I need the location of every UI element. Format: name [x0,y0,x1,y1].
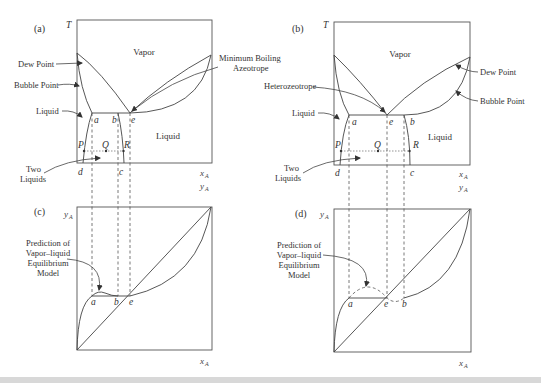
panel-c-callout-line3: Equilibrium [27,258,68,268]
panel-a-bubble-curve-left [77,53,92,113]
panel-a-point-d: d [78,167,83,177]
panel-a-x-axis-label: x A [199,168,209,179]
panel-b-y-axis-label: T [323,20,329,30]
panel-b-callout-two-liquids-line1: Two [284,163,299,173]
panel-d-point-a: a [348,299,353,309]
panel-d-callout-line4: Model [288,270,311,280]
svg-text:x: x [199,356,204,366]
panel-a-liquid-region: Liquid [156,131,180,141]
panel-a-label: (a) [34,23,45,35]
panel-a-point-a: a [94,115,99,125]
panel-d-x-axis-label: x A [458,358,468,369]
panel-b-frame [334,22,470,165]
panel-d-point-e: e [384,299,388,309]
panel-b-bubble-curve-right [404,57,470,115]
panel-b-y2-axis-label: y A [458,182,468,193]
panel-b-point-a: a [352,117,357,127]
panel-a-point-e: e [131,115,135,125]
panel-c-y-axis-label: y A [63,209,73,220]
panel-a-point-Q: Q [102,140,109,150]
panel-d-xy-diagram: (d) y A a e b Prediction of Vapor–liquid… [277,208,471,369]
panel-b-liquid-region: Liquid [428,132,452,142]
panel-a-lle-right-boundary [118,113,124,163]
panel-b-dew-curve-left [334,55,387,115]
panel-b-point-c: c [410,168,415,178]
svg-text:A: A [204,173,209,179]
svg-text:A: A [324,214,329,220]
panel-a-y2-axis-label: y A [199,181,209,192]
panel-a-callout-azeotrope-line2: Azeotrope [233,63,269,73]
panel-b-callout-dew-point: Dew Point [480,67,517,77]
panel-a-vapor-region: Vapor [133,47,155,57]
panel-a-callout-bubble-point: Bubble Point [14,80,59,90]
svg-text:x: x [458,358,463,368]
panel-a-dew-curve-left [77,53,130,113]
panel-b-label: (b) [292,23,304,35]
panel-a-callout-liquid: Liquid [36,106,59,116]
svg-text:y: y [319,209,324,219]
panel-a-callout-two-liquids-line2: Liquids [20,174,46,184]
panel-b-point-e: e [389,117,393,127]
panel-c-callout-line2: Vapor–liquid [26,248,71,258]
panel-d-y-axis-label: y A [319,209,329,220]
svg-text:y: y [63,209,68,219]
panel-a-lle-left-boundary [83,113,92,163]
panel-c-xy-diagram: (c) y A a b e Prediction of Vapor–liquid… [26,206,212,367]
panel-a-callout-dew-point: Dew Point [18,59,55,69]
svg-text:A: A [463,174,468,180]
panel-d-label: (d) [295,208,307,220]
panel-a-point-c: c [119,167,124,177]
panel-c-diagonal [77,207,211,350]
panel-b-point-P: P [334,140,341,150]
panel-d-point-b: b [402,299,407,309]
panel-b-lle-left-boundary [340,115,349,165]
panel-d-callout-line2: Vapor–liquid [277,250,322,260]
panel-a-point-P: P [77,140,84,150]
panel-d-callout-line3: Equilibrium [278,260,319,270]
bottom-gray-band [0,377,541,383]
panel-b-callout-liquid: Liquid [292,108,315,118]
panel-c-x-axis-label: x A [199,356,209,367]
panel-a-frame [77,20,212,163]
panel-b-point-b: b [410,117,415,127]
panel-b-bubble-curve-left [334,55,349,115]
svg-text:A: A [204,361,209,367]
panel-c-callout-line1: Prediction of [26,238,70,248]
panel-a-callout-two-liquids-line1: Two [26,164,41,174]
panel-d-callout-line1: Prediction of [277,240,321,250]
panel-b-callout-two-liquids-line2: Liquids [275,173,301,183]
panel-a-callout-azeotrope-line1: Minimum Boiling [219,53,281,63]
panel-d-model-prediction [349,287,404,302]
panel-a-y-axis-label: T [66,20,72,30]
panel-c-point-b: b [114,297,119,307]
panel-a-point-R: R [123,140,130,150]
panel-b-point-d: d [335,168,340,178]
panel-d-diagonal [334,209,470,352]
panel-a-bubble-curve-right [130,55,211,113]
svg-text:y: y [199,181,204,191]
panel-b-x-axis-label: x A [458,169,468,180]
panel-c-model-prediction [92,292,118,296]
panel-b-vapor-region: Vapor [389,49,411,59]
svg-text:y: y [458,182,463,192]
svg-text:A: A [463,187,468,193]
svg-text:x: x [199,168,204,178]
panel-c-label: (c) [34,206,45,218]
panel-a-point-b: b [112,115,117,125]
svg-text:x: x [458,169,463,179]
panel-b-txy-heterozeotrope: (b) T Vapor Liquid a e b P Q R d c x A [264,20,525,193]
panel-b-point-R: R [412,140,419,150]
panel-d-equilibrium-curve-right [404,209,470,298]
svg-text:A: A [463,363,468,369]
panel-c-point-e: e [129,297,133,307]
panel-b-point-Q: Q [374,140,381,150]
svg-text:A: A [204,186,209,192]
panel-a-txy-minimum-boiling-azeotrope: (a) T Vapor Liquid a b e P Q R d c [14,20,281,192]
phase-diagram-figure: (a) T Vapor Liquid a b e P Q R d c [0,0,541,383]
panel-b-callout-heterozeotrope: Heterozeotrope [264,81,317,91]
panel-b-callout-bubble-point: Bubble Point [480,96,525,106]
panel-c-callout-line4: Model [37,268,60,278]
svg-text:A: A [68,214,73,220]
panel-c-point-a: a [91,297,96,307]
